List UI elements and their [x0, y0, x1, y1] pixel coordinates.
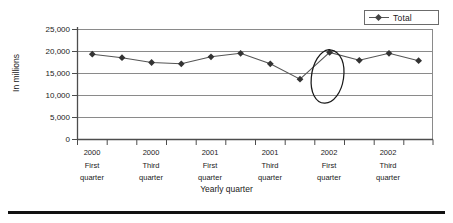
- x-tick-unit: quarter: [299, 172, 359, 185]
- x-tick-unit: quarter: [62, 172, 122, 185]
- y-axis-title: In millions: [11, 33, 21, 113]
- y-tick-label-25000: 25,000: [22, 25, 70, 34]
- y-tick-label-10000: 10,000: [22, 91, 70, 100]
- x-tick-quarter: Third: [121, 160, 181, 173]
- x-tick-year: 2002: [299, 147, 359, 160]
- x-tick-year: 2001: [180, 147, 240, 160]
- x-tick-year: 2002: [358, 147, 418, 160]
- x-tick-quarter: First: [180, 160, 240, 173]
- x-tick-unit: quarter: [180, 172, 240, 185]
- plot-area-background: [77, 29, 433, 139]
- x-tick-label-2000-first: 2000 First quarter: [62, 147, 122, 185]
- legend-marker-icon: [369, 13, 389, 22]
- x-axis-title: Yearly quarter: [0, 184, 453, 194]
- x-tick-label-2002-third: 2002 Third quarter: [358, 147, 418, 185]
- x-tick-label-2001-first: 2001 First quarter: [180, 147, 240, 185]
- x-tick-year: 2000: [62, 147, 122, 160]
- x-tick-marks: [78, 140, 434, 146]
- chart-figure: 25,000 20,000 15,000 10,000 5,000 0 In m…: [0, 0, 453, 223]
- y-tick-label-15000: 15,000: [22, 69, 70, 78]
- x-tick-unit: quarter: [121, 172, 181, 185]
- x-tick-year: 2001: [240, 147, 300, 160]
- x-tick-unit: quarter: [240, 172, 300, 185]
- bottom-divider-rule: [8, 211, 445, 214]
- y-tick-label-0: 0: [22, 135, 70, 144]
- y-tick-label-5000: 5,000: [22, 113, 70, 122]
- x-tick-unit: quarter: [358, 172, 418, 185]
- x-tick-quarter: Third: [358, 160, 418, 173]
- x-tick-label-2002-first: 2002 First quarter: [299, 147, 359, 185]
- x-tick-year: 2000: [121, 147, 181, 160]
- y-tick-label-20000: 20,000: [22, 47, 70, 56]
- x-tick-label-2001-third: 2001 Third quarter: [240, 147, 300, 185]
- x-tick-quarter: First: [299, 160, 359, 173]
- x-tick-quarter: Third: [240, 160, 300, 173]
- x-tick-quarter: First: [62, 160, 122, 173]
- y-tick-marks: [72, 30, 77, 140]
- x-tick-label-2000-third: 2000 Third quarter: [121, 147, 181, 185]
- legend-label-total: Total: [393, 13, 412, 23]
- chart-legend[interactable]: Total: [364, 10, 439, 25]
